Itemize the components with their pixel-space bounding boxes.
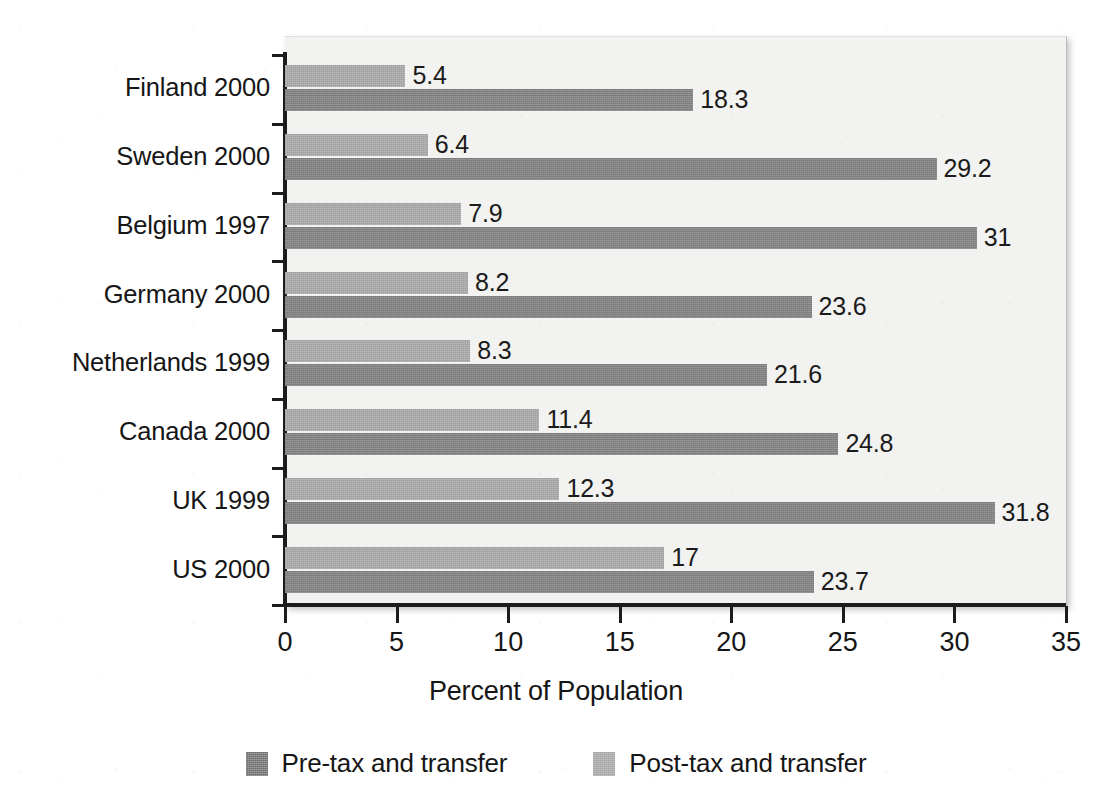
bar-dark xyxy=(285,158,937,180)
bar-light xyxy=(285,65,405,87)
x-axis-tick xyxy=(284,606,287,623)
y-axis-tick xyxy=(272,123,285,126)
y-axis-tick xyxy=(272,192,285,195)
bar-light xyxy=(285,272,468,294)
legend-item: Post-tax and transfer xyxy=(593,748,866,779)
bar-value-label: 18.3 xyxy=(700,88,748,110)
legend-swatch-icon xyxy=(246,752,268,776)
x-axis-tick-label: 35 xyxy=(1051,627,1081,657)
bar-value-label: 12.3 xyxy=(566,477,614,499)
legend-item: Pre-tax and transfer xyxy=(246,748,508,779)
x-axis-tick xyxy=(619,606,622,623)
x-axis-tick xyxy=(730,606,733,623)
bar-dark xyxy=(285,502,995,524)
x-axis-tick xyxy=(1065,606,1068,623)
category-label: UK 1999 xyxy=(172,486,270,514)
bar-value-label: 11.4 xyxy=(546,408,592,430)
bar-value-label: 6.4 xyxy=(435,133,469,155)
bar-value-label: 8.3 xyxy=(477,339,511,361)
x-axis-tick-label: 15 xyxy=(605,627,635,657)
bar-dark xyxy=(285,89,693,111)
category-label: Finland 2000 xyxy=(125,73,270,101)
bar-value-label: 31 xyxy=(984,226,1011,248)
bar-chart-figure: Finland 2000Sweden 2000Belgium 1997Germa… xyxy=(0,0,1112,801)
x-axis-tick-label: 0 xyxy=(277,627,292,657)
legend-label: Pre-tax and transfer xyxy=(282,748,508,779)
y-axis-tick xyxy=(272,535,285,538)
bar-value-label: 21.6 xyxy=(774,363,822,385)
bar-light xyxy=(285,203,461,225)
bar-light xyxy=(285,409,539,431)
y-axis-tick xyxy=(272,398,285,401)
x-axis-tick xyxy=(842,606,845,623)
category-label: Germany 2000 xyxy=(104,280,270,308)
y-axis-tick xyxy=(272,54,285,57)
category-label: Belgium 1997 xyxy=(116,211,270,239)
bar-value-label: 31.8 xyxy=(1002,501,1050,523)
x-axis-tick-label: 10 xyxy=(493,627,523,657)
bar-dark xyxy=(285,296,812,318)
bar-value-label: 23.6 xyxy=(819,295,867,317)
bar-value-label: 24.8 xyxy=(845,432,893,454)
bar-light xyxy=(285,134,428,156)
x-axis-tick xyxy=(953,606,956,623)
legend-label: Post-tax and transfer xyxy=(629,748,866,779)
bar-value-label: 29.2 xyxy=(944,157,992,179)
bar-dark xyxy=(285,571,814,593)
x-axis-tick-label: 30 xyxy=(939,627,969,657)
x-axis-title: Percent of Population xyxy=(0,676,1112,707)
category-label: US 2000 xyxy=(172,555,270,583)
legend-swatch-icon xyxy=(593,752,615,776)
bar-light xyxy=(285,478,559,500)
bar-value-label: 7.9 xyxy=(468,202,502,224)
category-label: Netherlands 1999 xyxy=(72,348,270,376)
y-axis-tick xyxy=(272,329,285,332)
x-axis-tick-label: 25 xyxy=(828,627,858,657)
x-axis-tick-label: 20 xyxy=(716,627,746,657)
y-axis-tick xyxy=(272,260,285,263)
bar-value-label: 23.7 xyxy=(821,570,869,592)
x-axis-tick-label: 5 xyxy=(389,627,404,657)
chart-legend: Pre-tax and transferPost-tax and transfe… xyxy=(0,748,1112,779)
bar-dark xyxy=(285,227,977,249)
category-label: Sweden 2000 xyxy=(116,142,270,170)
bar-value-label: 17 xyxy=(671,546,698,568)
y-axis-tick xyxy=(272,467,285,470)
bar-light xyxy=(285,340,470,362)
category-label: Canada 2000 xyxy=(119,417,270,445)
bar-dark xyxy=(285,364,767,386)
bar-light xyxy=(285,547,664,569)
bar-value-label: 5.4 xyxy=(412,64,446,86)
x-axis-tick xyxy=(507,606,510,623)
bar-dark xyxy=(285,433,838,455)
bar-value-label: 8.2 xyxy=(475,271,509,293)
x-axis-line xyxy=(283,603,1066,607)
x-axis-tick xyxy=(396,606,399,623)
